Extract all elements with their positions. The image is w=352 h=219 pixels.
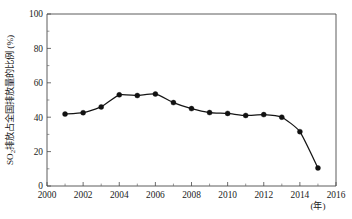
x-axis-title: (年) [310,200,325,211]
data-point [297,129,302,134]
data-point [63,112,68,117]
y-tick-label: 60 [34,78,44,88]
x-tick-label: 2012 [254,190,273,200]
chart-container: 020406080100 200020022004200620082010201… [0,0,352,219]
data-point [81,110,86,115]
x-tick-label: 2008 [182,190,201,200]
data-point [315,165,320,170]
data-point [243,113,248,118]
data-point [153,91,158,96]
x-tick-label: 2002 [74,190,93,200]
y-axis-title: SO2排放占全国排放量的比例 (%) [4,35,16,165]
x-tick-label: 2006 [146,190,165,200]
data-point [117,92,122,97]
data-point [189,106,194,111]
data-point [279,115,284,120]
y-tick-label: 100 [29,9,43,19]
x-tick-label: 2004 [110,190,129,200]
y-tick-label: 20 [34,147,44,157]
y-tick-label: 80 [34,44,44,54]
data-point [225,111,230,116]
x-tick-label: 2016 [327,190,346,200]
x-tick-label: 2010 [218,190,237,200]
data-point [171,100,176,105]
data-point [135,93,140,98]
data-point [261,112,266,117]
x-tick-label: 2014 [291,190,310,200]
x-tick-label: 2000 [38,190,57,200]
data-point [99,104,104,109]
data-point [207,110,212,115]
line-chart: 020406080100 200020022004200620082010201… [0,0,352,219]
y-tick-label: 40 [34,113,44,123]
